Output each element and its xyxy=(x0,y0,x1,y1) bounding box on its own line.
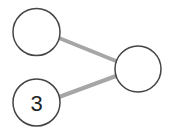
edge-bottom-left-to-right xyxy=(59,76,116,97)
edge-top-left-to-right xyxy=(59,38,116,61)
node-right xyxy=(115,46,161,92)
node-label: 3 xyxy=(30,91,42,116)
graph-diagram: 3 xyxy=(0,0,170,131)
node-top-left xyxy=(13,9,60,56)
node-bottom-left: 3 xyxy=(13,79,60,126)
